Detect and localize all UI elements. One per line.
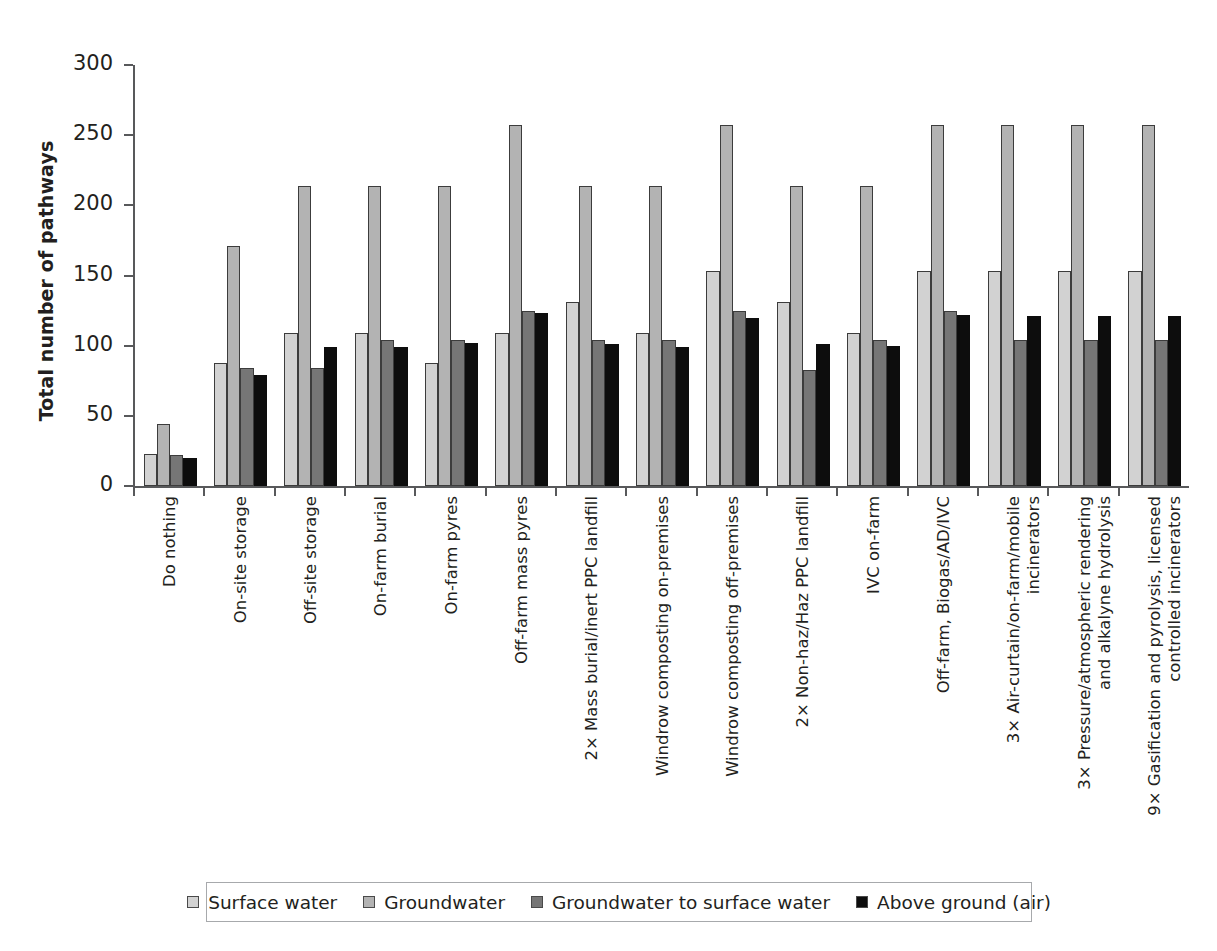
legend-item[interactable]: Surface water [187,892,337,913]
bar [1001,125,1014,486]
bar [368,186,381,486]
bar [816,344,829,486]
bar [157,424,170,486]
bar [1155,340,1168,486]
bar [170,455,183,486]
bar [144,454,157,486]
bar [944,311,957,486]
x-axis-category-label: Do nothing [160,496,180,856]
y-axis-tick-label: 300 [53,53,113,74]
bar [1071,125,1084,486]
y-axis-tick [124,204,133,206]
bar [298,186,311,486]
plot-area: 050100150200250300 [133,65,1188,487]
bar [790,186,803,486]
x-axis-category-label: Off-farm mass pyres [512,496,532,856]
bar-group [988,65,1041,486]
bar [662,340,675,486]
x-axis-category-label: 2× Non-haz/Haz PPC landfill [793,496,813,856]
bar [649,186,662,486]
y-axis-tick [124,64,133,66]
bar-group [284,65,337,486]
bar [522,311,535,486]
legend-swatch-groundwater-icon [363,896,375,908]
x-axis-tick [836,486,838,496]
bar [451,340,464,486]
bar-group [706,65,759,486]
bar [381,340,394,486]
x-axis-tick [555,486,557,496]
x-axis-category-label: Off-farm, Biogas/AD/IVC [934,496,954,856]
y-axis-tick-label: 250 [53,123,113,144]
bar [847,333,860,486]
bar-chart-figure: Total number of pathways 050100150200250… [0,0,1217,951]
x-axis-tick [485,486,487,496]
legend-item-label: Above ground (air) [877,892,1051,913]
bar [605,344,618,486]
bar-group [214,65,267,486]
y-axis-tick-label: 100 [53,334,113,355]
legend-swatch-groundwater-to-surface-water-icon [531,896,543,908]
bar [957,315,970,486]
x-axis-category-label: On-site storage [231,496,251,856]
bar [284,333,297,486]
chart-legend: Surface waterGroundwaterGroundwater to s… [206,882,1032,922]
x-axis-category-label: 2× Mass burial/inert PPC landfill [582,496,602,856]
x-axis-category-label: IVC on-farm [864,496,884,856]
y-axis-tick-label: 0 [53,474,113,495]
bar [438,186,451,486]
legend-item[interactable]: Above ground (air) [856,892,1051,913]
bar-group [425,65,478,486]
bar [355,333,368,486]
x-axis-tick [203,486,205,496]
bar [777,302,790,486]
bar [887,346,900,486]
x-axis-tick [344,486,346,496]
bar [733,311,746,486]
y-axis-tick [124,415,133,417]
bar [1142,125,1155,486]
x-axis-category-labels: Do nothingOn-site storageOff-site storag… [133,496,1189,866]
bar [227,246,240,486]
bar [579,186,592,486]
legend-item[interactable]: Groundwater to surface water [531,892,830,913]
bar [394,347,407,486]
bar-group [495,65,548,486]
y-axis-tick-label: 150 [53,264,113,285]
bar [636,333,649,486]
bar [1098,316,1111,486]
x-axis-tick [1118,486,1120,496]
bar [311,368,324,486]
bar [931,125,944,486]
y-axis-tick [124,134,133,136]
bar [803,370,816,486]
bar [917,271,930,486]
bar [592,340,605,486]
legend-item[interactable]: Groundwater [363,892,505,913]
x-axis-tick [274,486,276,496]
bar [495,333,508,486]
bar [214,363,227,486]
x-axis-tick [907,486,909,496]
x-axis-category-label: On-farm burial [371,496,391,856]
bar [425,363,438,486]
bar [1014,340,1027,486]
bar [1128,271,1141,486]
bar-group [636,65,689,486]
bar [746,318,759,486]
bar [720,125,733,486]
bar [1058,271,1071,486]
x-axis-category-label: 3× Pressure/atmospheric rendering and al… [1075,496,1116,856]
bar-group [566,65,619,486]
bar [240,368,253,486]
bar [1168,316,1181,486]
bar [873,340,886,486]
legend-swatch-above-ground-air-icon [856,896,868,908]
x-axis-tick [133,486,135,496]
y-axis-tick [124,275,133,277]
bar [465,343,478,486]
bar-group [144,65,197,486]
x-axis-category-label: 3× Air-curtain/on-farm/mobile incinerato… [1004,496,1045,856]
x-axis-category-label: 9× Gasification and pyrolysis, licensed … [1145,496,1186,856]
x-axis-category-label: On-farm pyres [442,496,462,856]
